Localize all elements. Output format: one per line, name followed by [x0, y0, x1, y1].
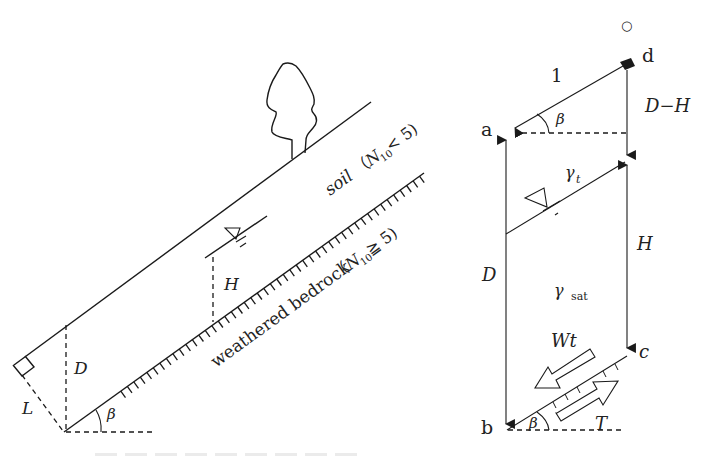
- slip-surface-line: [507, 356, 627, 430]
- weight-arrow-icon: [535, 349, 595, 388]
- right-panel: ○ d 1 β a D−H γ t H D γ sat: [481, 18, 691, 438]
- h-label-right: H: [636, 233, 653, 254]
- point-c-label: c: [639, 341, 649, 362]
- tree-icon: [267, 63, 317, 159]
- beta-arc-top: [537, 114, 549, 133]
- unit-length-label: 1: [551, 65, 562, 86]
- point-d-marker: [620, 58, 635, 70]
- d-label-right: D: [481, 264, 497, 285]
- water-table-line: [205, 216, 267, 258]
- bedrock-hatching: [121, 176, 424, 397]
- figure-caption-cropped: [95, 453, 365, 456]
- beta-label-bottom: β: [528, 414, 538, 432]
- bedrock-label: weathered bedrock （ N 10 ≧ 5): [207, 223, 402, 373]
- beta-arc-bottom: [537, 412, 549, 430]
- water-table-icon-right: [525, 188, 560, 215]
- svg-text:soil: soil: [321, 166, 357, 200]
- beta-arc: [96, 410, 101, 432]
- beta-label-left: β: [106, 405, 116, 423]
- point-a-label: a: [481, 118, 492, 140]
- slip-surface-hatching: [553, 364, 618, 408]
- marker-circle: ○: [621, 18, 632, 33]
- gamma-t-subscript: t: [576, 173, 581, 186]
- point-d-label: d: [642, 44, 654, 66]
- d-label: D: [73, 358, 88, 378]
- h-label: H: [223, 274, 240, 294]
- l-label: L: [21, 398, 33, 418]
- gamma-sat-label: γ: [554, 281, 564, 300]
- ground-surface-line: [14, 102, 371, 365]
- beta-label-top: β: [555, 110, 565, 128]
- gamma-sat-subscript: sat: [571, 290, 588, 303]
- wt-label: Wt: [551, 330, 578, 351]
- left-panel: H D L β soil （ N 10 < 5) weathered bedro…: [13, 63, 424, 432]
- t-label: T: [595, 413, 609, 434]
- point-b-label: b: [481, 416, 493, 438]
- gamma-t-label: γ: [565, 163, 575, 182]
- right-angle-icon: [13, 356, 34, 376]
- resistance-arrow-icon: [556, 381, 618, 421]
- unit-length-line: [515, 66, 623, 128]
- bedrock-surface-line: [64, 173, 424, 432]
- soil-label: soil （ N 10 < 5): [321, 118, 423, 200]
- slope-stability-diagram: H D L β soil （ N 10 < 5) weathered bedro…: [0, 0, 710, 460]
- d-minus-h-label: D−H: [644, 95, 691, 116]
